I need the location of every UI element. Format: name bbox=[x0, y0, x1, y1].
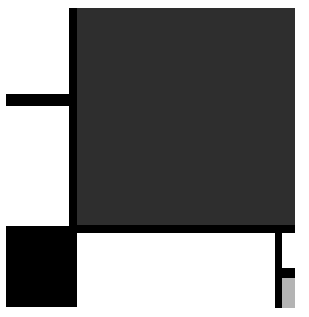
left-vertical-bar bbox=[69, 8, 77, 233]
left-horizontal-bar bbox=[6, 94, 70, 106]
small-horizontal-bar bbox=[282, 268, 295, 278]
bottom-horizontal-bar bbox=[69, 225, 295, 233]
dark-gray-square bbox=[77, 8, 295, 225]
black-square bbox=[6, 226, 77, 307]
light-gray-block bbox=[282, 278, 295, 308]
right-vertical-bar bbox=[275, 233, 282, 308]
